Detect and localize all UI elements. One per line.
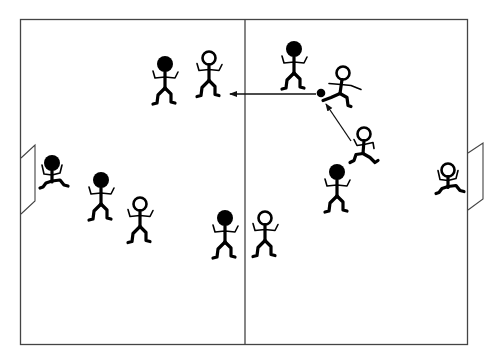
player-head-solid-icon xyxy=(44,155,60,171)
player-head-solid-icon xyxy=(93,172,109,188)
ball xyxy=(317,89,326,98)
player-head-solid-icon xyxy=(217,210,233,226)
diagram-canvas xyxy=(0,0,497,361)
field-boundary xyxy=(21,20,468,345)
right-goal xyxy=(468,143,483,210)
soccer-field-diagram xyxy=(0,0,497,361)
player-head-hollow-icon xyxy=(134,198,147,211)
player-head-solid-icon xyxy=(157,56,173,72)
player-head-solid-icon xyxy=(286,41,302,57)
player-head-hollow-icon xyxy=(442,164,455,177)
player-head-hollow-icon xyxy=(203,52,216,65)
player-body xyxy=(340,80,342,94)
player-body xyxy=(363,141,364,154)
player-head-hollow-icon xyxy=(358,128,371,141)
player-head-hollow-icon xyxy=(337,67,350,80)
player-head-hollow-icon xyxy=(259,212,272,225)
player-head-solid-icon xyxy=(329,164,345,180)
